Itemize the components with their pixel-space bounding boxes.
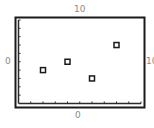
square-marker-icon xyxy=(114,43,119,48)
axes xyxy=(19,20,142,104)
plot-frame xyxy=(16,18,145,108)
scatter-plot xyxy=(0,0,154,128)
square-marker-icon xyxy=(41,68,46,73)
square-marker-icon xyxy=(90,76,95,81)
square-marker-icon xyxy=(65,59,70,64)
data-points xyxy=(41,43,120,81)
